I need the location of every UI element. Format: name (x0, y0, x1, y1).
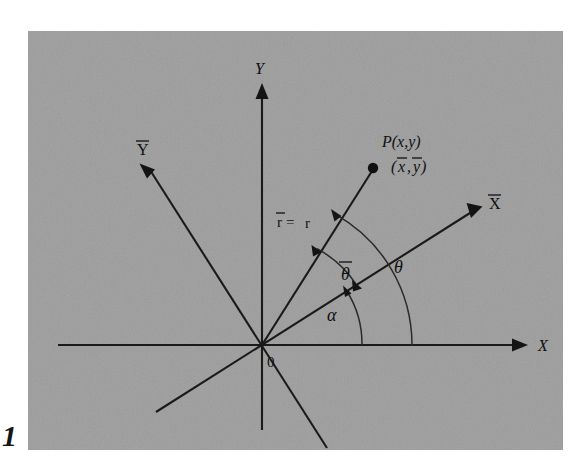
point-p-bar-close: ) (420, 158, 426, 176)
plate-texture (28, 31, 563, 450)
arc-theta-bar-label-text: θ (341, 264, 350, 284)
point-p-coordinates-bar: ( x , y ) (391, 158, 426, 176)
point-p-coordinates-xy: P(x,y) (381, 133, 421, 151)
radius-label-r: r (305, 215, 310, 231)
x-bar-axis-label-text: X (489, 195, 501, 212)
radius-label-equals: = (286, 214, 294, 230)
arc-theta-label: θ (394, 257, 403, 277)
radius-label: r = r (276, 213, 310, 231)
arc-alpha-label: α (327, 305, 337, 325)
point-p-bar-comma: , (407, 158, 411, 175)
x-axis-label: X (537, 337, 549, 354)
figure-canvas: X Y X Y P(x,y) ( x , (0, 0, 584, 468)
point-p-bar-y: y (411, 158, 421, 176)
page-number-mark: 1 (2, 419, 17, 452)
origin-label: 0 (267, 354, 275, 370)
y-bar-axis-label: Y (136, 141, 149, 158)
point-p-bar-x: x (397, 158, 405, 175)
y-bar-axis-label-text: Y (137, 141, 149, 158)
x-bar-axis-label: X (488, 195, 501, 212)
radius-label-rbar: r (277, 214, 282, 230)
point-p-dot (368, 163, 378, 173)
diagram-plate (28, 31, 563, 450)
